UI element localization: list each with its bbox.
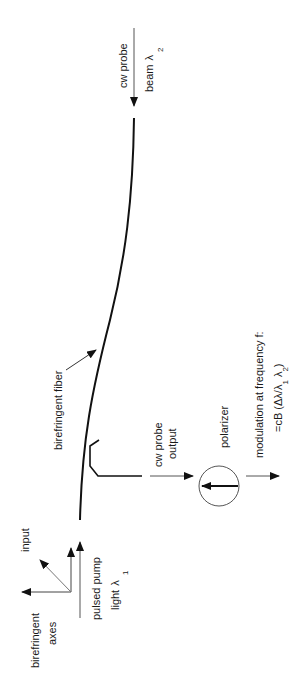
birefringent-axes-icon xyxy=(22,548,71,592)
input-label: input xyxy=(19,528,31,552)
pump-label-1: pulsed pump xyxy=(90,557,102,620)
output-coupler xyxy=(90,440,142,476)
modulation-label-2: =cB (Δλ/λ1 λ2) xyxy=(272,363,290,432)
fiber-diagram: cw probe beamλ 2 birefringent fiber cw p… xyxy=(0,0,308,696)
probe-output-label-2: output xyxy=(166,428,178,459)
probe-input-subscript: 2 xyxy=(156,47,165,52)
axes-label-1: birefringent xyxy=(29,613,41,668)
pump-subscript: 1 xyxy=(121,570,130,575)
fiber-label: birefringent fiber xyxy=(52,370,64,450)
polarizer-label: polarizer xyxy=(218,405,230,448)
modulation-label-1: modulation at frequency f: xyxy=(253,331,265,458)
axes-label-2: axes xyxy=(46,621,58,645)
pump-label-2: lightλ xyxy=(109,580,121,610)
polarizer-icon xyxy=(199,466,239,506)
probe-output-label-1: cw probe xyxy=(152,422,164,467)
birefringent-fiber xyxy=(80,118,134,520)
probe-input-label-2: beamλ xyxy=(143,54,155,92)
fiber-pointer-arrow xyxy=(66,350,96,370)
probe-input-label-1: cw probe xyxy=(117,43,129,88)
